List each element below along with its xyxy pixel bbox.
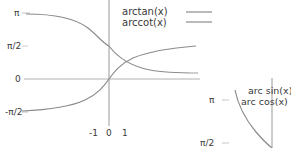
label-pi: π bbox=[14, 8, 19, 18]
legend-arcsin-label: arc sin(x) bbox=[248, 85, 291, 96]
arccot-curve bbox=[26, 14, 198, 73]
xtick-neg-one: -1 bbox=[89, 128, 98, 138]
xtick-zero: 0 bbox=[106, 128, 112, 138]
right-label-pi: π bbox=[209, 95, 214, 105]
label-zero: 0 bbox=[15, 74, 21, 84]
legend-arccot-label: arccot(x) bbox=[122, 17, 167, 28]
right-label-half-pi: π/2 bbox=[200, 138, 214, 148]
legend-arctan-label: arctan(x) bbox=[122, 6, 168, 17]
label-half-pi: π/2 bbox=[7, 41, 21, 51]
legend-arccos-label: arc cos(x) bbox=[241, 96, 288, 107]
xtick-one: 1 bbox=[122, 128, 128, 138]
label-neg-half-pi: -π/2 bbox=[5, 107, 22, 117]
